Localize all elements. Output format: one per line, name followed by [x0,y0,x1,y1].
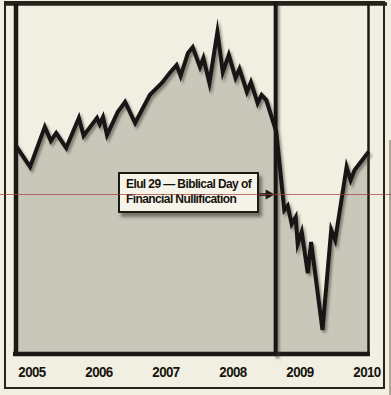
x-tick-2007: 2007 [152,364,179,380]
x-tick-2010: 2010 [353,364,380,380]
x-tick-2006: 2006 [85,364,112,380]
x-tick-2005: 2005 [18,364,45,380]
elul29-callout-box: Elul 29 — Biblical Day of Financial Null… [118,172,259,213]
x-tick-2009: 2009 [286,364,313,380]
callout-text-line1: Elul 29 — Biblical Day of [126,177,251,192]
callout-text-line2: Financial Nullification [126,192,251,207]
book-figure-stock-chart: Elul 29 — Biblical Day of Financial Null… [0,0,391,395]
x-tick-2008: 2008 [219,364,246,380]
